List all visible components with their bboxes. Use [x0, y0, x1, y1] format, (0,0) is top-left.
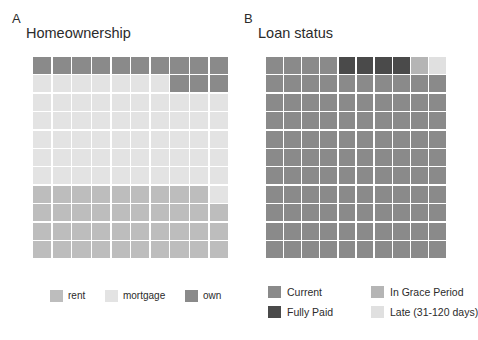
waffle-cell [320, 241, 337, 258]
waffle-cell [375, 186, 392, 203]
waffle-cell [53, 223, 71, 240]
waffle-cell [170, 204, 188, 221]
waffle-cell [53, 57, 71, 74]
waffle-cell [429, 94, 446, 111]
waffle-cell [266, 112, 283, 129]
waffle-cell [53, 131, 71, 148]
waffle-cell [210, 112, 228, 129]
legend-label: In Grace Period [390, 287, 478, 298]
waffle-cell [284, 112, 301, 129]
waffle-cell [411, 131, 428, 148]
waffle-cell [190, 204, 208, 221]
waffle-cell [131, 94, 149, 111]
waffle-cell [375, 149, 392, 166]
legend-swatch [268, 286, 281, 298]
waffle-cell [190, 57, 208, 74]
waffle-cell [393, 223, 410, 240]
waffle-cell [112, 57, 130, 74]
waffle-cell [357, 167, 374, 184]
waffle-cell [284, 186, 301, 203]
waffle-cell [357, 94, 374, 111]
waffle-cell [33, 112, 51, 129]
waffle-cell [72, 149, 90, 166]
waffle-cell [131, 57, 149, 74]
waffle-cell [375, 241, 392, 258]
legend-swatch [50, 290, 63, 302]
waffle-cell [131, 241, 149, 258]
waffle-cell [33, 186, 51, 203]
waffle-cell [302, 167, 319, 184]
waffle-cell [33, 149, 51, 166]
waffle-cell [375, 223, 392, 240]
waffle-cell [302, 223, 319, 240]
waffle-cell [170, 94, 188, 111]
waffle-chart-loan-status [266, 57, 446, 258]
waffle-cell [72, 131, 90, 148]
waffle-cell [411, 149, 428, 166]
waffle-cell [320, 94, 337, 111]
waffle-cell [151, 75, 169, 92]
waffle-cell [284, 204, 301, 221]
waffle-cell [151, 149, 169, 166]
waffle-cell [266, 57, 283, 74]
waffle-cell [266, 186, 283, 203]
legend-swatch [371, 306, 384, 318]
waffle-cell [411, 223, 428, 240]
waffle-cell [320, 204, 337, 221]
waffle-cell [266, 75, 283, 92]
waffle-cell [429, 223, 446, 240]
waffle-cell [320, 167, 337, 184]
waffle-cell [320, 75, 337, 92]
waffle-cell [190, 223, 208, 240]
waffle-cell [92, 112, 110, 129]
waffle-cell [393, 75, 410, 92]
waffle-cell [33, 204, 51, 221]
waffle-cell [302, 57, 319, 74]
waffle-cell [92, 241, 110, 258]
waffle-cell [72, 57, 90, 74]
waffle-cell [131, 204, 149, 221]
legend-homeownership: rentmortgageown [50, 290, 236, 302]
waffle-cell [112, 167, 130, 184]
waffle-cell [190, 75, 208, 92]
waffle-cell [393, 94, 410, 111]
waffle-cell [210, 149, 228, 166]
waffle-cell [190, 131, 208, 148]
waffle-cell [357, 241, 374, 258]
waffle-cell [357, 112, 374, 129]
waffle-cell [72, 241, 90, 258]
waffle-cell [131, 223, 149, 240]
waffle-cell [210, 94, 228, 111]
waffle-cell [375, 75, 392, 92]
waffle-cell [375, 131, 392, 148]
waffle-cell [33, 167, 51, 184]
waffle-cell [302, 186, 319, 203]
waffle-cell [393, 149, 410, 166]
waffle-cell [190, 241, 208, 258]
panel-homeownership: A Homeownership rentmortgageown [0, 0, 236, 340]
waffle-cell [33, 241, 51, 258]
waffle-cell [92, 75, 110, 92]
waffle-cell [339, 75, 356, 92]
waffle-cell [375, 112, 392, 129]
waffle-cell [429, 131, 446, 148]
waffle-cell [112, 112, 130, 129]
panel-loan-status: B Loan status CurrentIn Grace PeriodFull… [236, 0, 471, 340]
waffle-cell [302, 112, 319, 129]
waffle-cell [190, 112, 208, 129]
waffle-cell [210, 241, 228, 258]
legend-swatch [268, 306, 281, 318]
waffle-cell [210, 167, 228, 184]
waffle-cell [339, 94, 356, 111]
waffle-cell [302, 149, 319, 166]
legend-label: rent [68, 291, 100, 301]
legend-swatch [105, 290, 118, 302]
waffle-cell [92, 223, 110, 240]
waffle-cell [357, 75, 374, 92]
waffle-cell [429, 75, 446, 92]
waffle-cell [92, 204, 110, 221]
waffle-cell [284, 223, 301, 240]
waffle-cell [53, 204, 71, 221]
waffle-cell [393, 131, 410, 148]
waffle-cell [339, 112, 356, 129]
